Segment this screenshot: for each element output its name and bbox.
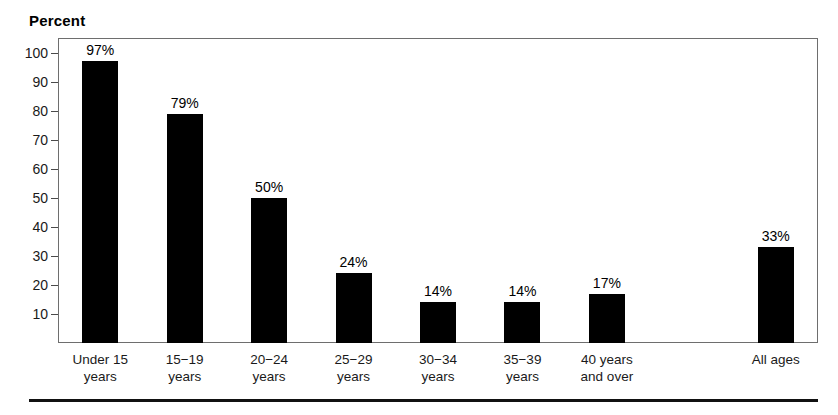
bar-value-label: 17% [593, 275, 621, 291]
y-tick-label: 40 [32, 219, 48, 235]
y-tick-mark [51, 198, 58, 199]
bottom-divider-rule [29, 399, 818, 402]
x-tick-label: 20−24years [221, 351, 317, 385]
x-tick-label: 40 yearsand over [559, 351, 655, 385]
bar: 14% [420, 302, 456, 343]
y-tick-mark [51, 111, 58, 112]
y-tick-label: 20 [32, 277, 48, 293]
y-tick-mark [51, 285, 58, 286]
y-tick-mark [51, 140, 58, 141]
bar-value-label: 79% [171, 95, 199, 111]
y-tick-label: 100 [25, 45, 48, 61]
bar-value-label: 14% [508, 283, 536, 299]
y-tick-mark [51, 227, 58, 228]
x-tick-label-line: years [474, 368, 570, 385]
y-tick-label: 80 [32, 103, 48, 119]
bar: 79% [167, 114, 203, 343]
x-tick-label-line: 30−34 [390, 351, 486, 368]
x-tick-label: All ages [728, 351, 824, 368]
y-axis-title: Percent [29, 12, 85, 29]
bar: 97% [82, 61, 118, 343]
bar: 17% [589, 294, 625, 343]
bar: 24% [336, 273, 372, 343]
chart-screenshot: Percent 102030405060708090100 97%79%50%2… [0, 0, 838, 415]
x-tick-label: 15−19years [137, 351, 233, 385]
x-tick-label-line: years [137, 368, 233, 385]
x-tick-label-line: years [306, 368, 402, 385]
y-tick-mark [51, 53, 58, 54]
y-tick-mark [51, 314, 58, 315]
x-tick-label-line: All ages [728, 351, 824, 368]
x-tick-label-line: 25−29 [306, 351, 402, 368]
x-tick-label-line: and over [559, 368, 655, 385]
x-tick-label: Under 15years [52, 351, 148, 385]
x-tick-label-line: 40 years [559, 351, 655, 368]
bar: 14% [504, 302, 540, 343]
x-tick-label-line: Under 15 [52, 351, 148, 368]
bar-value-label: 97% [86, 42, 114, 58]
y-tick-label: 90 [32, 74, 48, 90]
y-tick-mark [51, 256, 58, 257]
x-tick-label-line: years [221, 368, 317, 385]
y-tick-mark [51, 82, 58, 83]
bar-value-label: 50% [255, 179, 283, 195]
x-tick-label-line: 20−24 [221, 351, 317, 368]
y-tick-label: 70 [32, 132, 48, 148]
bar-value-label: 14% [424, 283, 452, 299]
x-tick-label: 35−39years [474, 351, 570, 385]
bar: 33% [758, 247, 794, 343]
bar-value-label: 24% [340, 254, 368, 270]
y-tick-label: 10 [32, 306, 48, 322]
x-tick-label: 30−34years [390, 351, 486, 385]
bar-value-label: 33% [762, 228, 790, 244]
y-tick-label: 60 [32, 161, 48, 177]
y-tick-label: 50 [32, 190, 48, 206]
x-tick-label-line: years [52, 368, 148, 385]
y-tick-label: 30 [32, 248, 48, 264]
bar: 50% [251, 198, 287, 343]
x-tick-label-line: 35−39 [474, 351, 570, 368]
x-tick-label-line: 15−19 [137, 351, 233, 368]
y-tick-mark [51, 169, 58, 170]
plot-area: 102030405060708090100 97%79%50%24%14%14%… [58, 38, 818, 343]
x-tick-label: 25−29years [306, 351, 402, 385]
x-tick-label-line: years [390, 368, 486, 385]
